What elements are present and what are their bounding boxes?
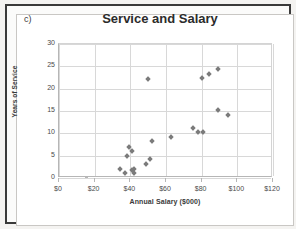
gridline-horizontal <box>59 66 271 67</box>
data-point <box>149 139 155 145</box>
data-point <box>199 76 205 82</box>
gridline-vertical <box>95 44 96 176</box>
x-axis-title: Annual Salary ($000) <box>58 198 272 205</box>
x-axis-tick-mark <box>165 178 166 182</box>
gridline-vertical <box>130 44 131 176</box>
x-axis-tick-label: $0 <box>38 185 78 193</box>
plot-area <box>58 43 272 177</box>
x-axis-tick-mark <box>272 178 273 182</box>
data-point <box>215 67 221 73</box>
x-axis-tick-mark <box>201 178 202 182</box>
chart-title: Service and Salary <box>60 11 260 26</box>
y-axis-tick-label: 15 <box>33 106 55 113</box>
panel-label: c) <box>24 14 32 24</box>
data-point <box>144 161 150 167</box>
gridline-vertical <box>237 44 238 176</box>
x-axis-tick-label: $100 <box>216 185 256 193</box>
gridline-vertical <box>59 44 60 176</box>
data-point <box>215 107 221 113</box>
x-axis-tick-label: $120 <box>252 185 292 193</box>
y-axis-tick-label: 20 <box>33 84 55 91</box>
gridline-vertical <box>273 44 274 176</box>
x-axis-tick-mark <box>94 178 95 182</box>
gridline-horizontal <box>59 133 271 134</box>
data-point <box>190 125 196 131</box>
data-point <box>147 156 153 162</box>
screenshot-root: c) Service and Salary Years of Service 0… <box>0 0 296 229</box>
data-point <box>169 134 175 140</box>
data-point <box>129 148 135 154</box>
data-point <box>122 170 128 176</box>
data-point <box>145 76 151 82</box>
x-axis-tick-label: $80 <box>181 185 221 193</box>
gridline-horizontal <box>59 44 271 45</box>
data-point <box>206 71 212 77</box>
y-axis-tick-label: 25 <box>33 61 55 68</box>
y-axis-tick-label: 30 <box>33 39 55 46</box>
data-point <box>226 112 232 118</box>
gridline-vertical <box>166 44 167 176</box>
y-axis-title: Years of Service <box>11 52 18 132</box>
y-axis-tick-label: 10 <box>33 128 55 135</box>
y-axis-tick-label: 0 <box>33 173 55 180</box>
gridline-horizontal <box>59 111 271 112</box>
y-axis-tick-labels: 051015202530 <box>30 43 55 177</box>
y-axis-tick-label: 5 <box>33 151 55 158</box>
gridline-horizontal <box>59 156 271 157</box>
data-point <box>124 153 130 159</box>
x-axis-tick-label: $20 <box>74 185 114 193</box>
x-axis-tick-label: $40 <box>109 185 149 193</box>
data-point <box>117 166 123 172</box>
x-axis-tick-mark <box>129 178 130 182</box>
x-axis-tick-label: $60 <box>145 185 185 193</box>
gridline-vertical <box>202 44 203 176</box>
x-axis-tick-mark <box>58 178 59 182</box>
x-axis-tick-mark <box>236 178 237 182</box>
gridline-horizontal <box>59 89 271 90</box>
